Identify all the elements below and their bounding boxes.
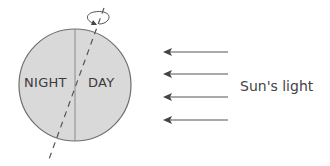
day-label: DAY	[88, 75, 115, 90]
sun-light-label: Sun's light	[240, 78, 313, 94]
night-label: NIGHT	[24, 75, 67, 90]
sun-arrows	[163, 48, 228, 124]
